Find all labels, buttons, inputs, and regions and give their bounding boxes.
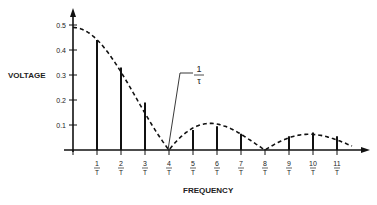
x-tick-denominator: T (119, 169, 123, 176)
x-tick-denominator: T (143, 169, 147, 176)
x-tick-denominator: T (215, 169, 219, 176)
x-tick-denominator: T (287, 169, 291, 176)
x-tick-denominator: T (239, 169, 243, 176)
annotation-denominator: τ (197, 76, 201, 86)
x-tick-denominator: T (263, 169, 267, 176)
x-tick-numerator: 7 (239, 160, 243, 167)
y-tick-label: 0.3 (56, 72, 66, 79)
y-ticks: 0.10.20.30.40.5 (56, 22, 77, 129)
x-tick-numerator: 4 (167, 160, 171, 167)
y-tick-label: 0.4 (56, 47, 66, 54)
x-ticks: 1T2T3T4T5T6T7T8T9T10T11T (73, 149, 341, 176)
x-tick-denominator: T (335, 169, 339, 176)
spectrum-chart: 0.10.20.30.40.5 1T2T3T4T5T6T7T8T9T10T11T… (0, 0, 377, 205)
x-tick-denominator: T (191, 169, 195, 176)
x-tick-denominator: T (311, 169, 315, 176)
x-tick-numerator: 10 (309, 160, 317, 167)
x-tick-numerator: 2 (119, 160, 123, 167)
envelope-curve (73, 28, 352, 151)
y-axis-label: VOLTAGE (8, 71, 46, 80)
annotation-numerator: 1 (196, 64, 201, 74)
x-tick-numerator: 11 (333, 160, 340, 167)
x-tick-numerator: 6 (215, 160, 219, 167)
x-tick-numerator: 9 (287, 160, 291, 167)
x-axis-label: FREQUENCY (183, 186, 234, 195)
y-tick-label: 0.1 (56, 122, 66, 129)
x-tick-denominator: T (167, 169, 171, 176)
bars (97, 40, 337, 150)
x-tick-numerator: 8 (263, 160, 267, 167)
x-tick-denominator: T (95, 169, 99, 176)
annotation: 1 τ (168, 64, 204, 150)
y-tick-label: 0.5 (56, 22, 66, 29)
x-tick-numerator: 5 (191, 160, 195, 167)
y-tick-label: 0.2 (56, 97, 66, 104)
x-tick-numerator: 3 (143, 160, 147, 167)
x-tick-numerator: 1 (95, 160, 99, 167)
